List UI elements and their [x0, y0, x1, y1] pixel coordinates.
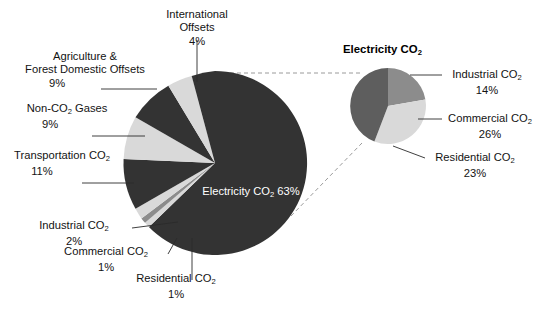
- label-industrial-sec-pre: Industrial CO: [452, 68, 517, 80]
- label-residential-main-sub: 2: [212, 277, 216, 286]
- label-commercial-main-sub: 2: [144, 250, 148, 259]
- label-residential-sec-sub: 2: [511, 156, 515, 165]
- main-pie: [124, 71, 308, 255]
- label-transportation-pct: 11%: [0, 165, 92, 178]
- label-non-co2-gases-text: Non-CO2 Gases: [27, 102, 108, 114]
- label-agriculture-forest-offsets: Agriculture & Forest Domestic Offsets 9%: [0, 50, 176, 90]
- label-transportation-pre: Transportation CO: [14, 149, 106, 161]
- label-electricity-inpie-sub: 2: [270, 190, 274, 199]
- label-electricity-inpie-text: Electricity CO2: [202, 185, 274, 197]
- label-residential-co2-secondary: Residential CO2 23%: [428, 151, 522, 180]
- label-commercial-sec-sub: 2: [528, 117, 532, 126]
- secondary-pie-title: Electricity CO2: [343, 43, 422, 57]
- label-commercial-main-text: Commercial CO2: [64, 245, 148, 257]
- label-international-offsets-pct: 4%: [141, 35, 253, 48]
- label-industrial-sec-text: Industrial CO2: [452, 68, 522, 80]
- label-residential-sec-pre: Residential CO: [435, 151, 510, 163]
- label-commercial-co2-main: Commercial CO2 1%: [43, 245, 169, 274]
- label-electricity-co2-inpie: Electricity CO2 63%: [196, 185, 306, 201]
- label-transportation-text: Transportation CO2: [14, 149, 110, 161]
- label-industrial-main-pre: Industrial CO: [39, 219, 104, 231]
- label-residential-sec-text: Residential CO2: [435, 151, 514, 163]
- label-commercial-sec-pct: 26%: [444, 128, 536, 141]
- label-commercial-main-pre: Commercial CO: [64, 245, 144, 257]
- label-industrial-co2-secondary: Industrial CO2 14%: [444, 68, 530, 97]
- label-residential-main-pct: 1%: [113, 288, 239, 301]
- label-residential-sec-pct: 23%: [428, 167, 522, 180]
- label-residential-co2-main: Residential CO2 1%: [113, 272, 239, 301]
- label-non-co2-gases-pre: Non-CO: [27, 102, 68, 114]
- label-non-co2-gases-pct: 9%: [4, 118, 96, 131]
- electricity-breakdown-pie: [350, 68, 426, 144]
- label-non-co2-gases: Non-CO2 Gases 9%: [4, 102, 130, 131]
- label-agriculture-forest-pct: 9%: [0, 77, 120, 90]
- label-international-offsets-line2: Offsets: [179, 21, 214, 33]
- label-agriculture-forest-line1: Agriculture &: [53, 50, 117, 62]
- label-electricity-inpie-pct: 63%: [277, 185, 299, 197]
- label-international-offsets: International Offsets 4%: [141, 8, 253, 48]
- label-agriculture-forest-line2: Forest Domestic Offsets: [25, 63, 145, 75]
- label-transportation-co2: Transportation CO2 11%: [0, 149, 132, 178]
- label-industrial-main-text: Industrial CO2: [39, 219, 109, 231]
- label-commercial-sec-text: Commercial CO2: [448, 112, 532, 124]
- label-industrial-sec-pct: 14%: [444, 84, 530, 97]
- label-transportation-sub: 2: [106, 154, 110, 163]
- slice-sec-industrial-co2[interactable]: [388, 68, 425, 106]
- label-electricity-inpie-pre: Electricity CO: [202, 185, 270, 197]
- label-industrial-sec-sub: 2: [518, 73, 522, 82]
- label-commercial-sec-pre: Commercial CO: [448, 112, 528, 124]
- leader-residential-sec: [393, 146, 425, 158]
- secondary-pie-title-text: Electricity CO: [343, 43, 418, 55]
- label-commercial-co2-secondary: Commercial CO2 26%: [444, 112, 536, 141]
- label-residential-main-text: Residential CO2: [136, 272, 215, 284]
- label-industrial-main-sub: 2: [105, 224, 109, 233]
- label-international-offsets-line1: International: [166, 8, 228, 20]
- secondary-pie-title-sub: 2: [418, 48, 422, 57]
- label-residential-main-pre: Residential CO: [136, 272, 211, 284]
- label-non-co2-gases-post: Gases: [72, 102, 107, 114]
